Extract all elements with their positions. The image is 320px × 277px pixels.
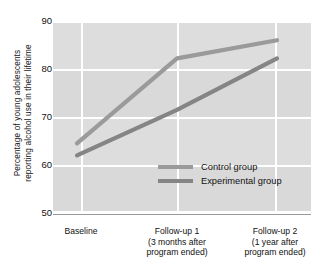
y-tick-label-80: 80 xyxy=(30,64,52,74)
chart-figure: Percentage of young adolescents reportin… xyxy=(0,0,320,277)
x-tick-followup-2-line-1: Follow-up 2 xyxy=(235,226,315,237)
y-tick-label-50: 50 xyxy=(30,208,52,218)
legend-swatch-control-group xyxy=(158,165,193,169)
x-tick-followup-2-line-2: (1 year after xyxy=(235,237,315,248)
plot-area: Control group Experimental group xyxy=(53,21,311,213)
x-tick-label-baseline: Baseline xyxy=(41,226,121,237)
chart-legend: Control group Experimental group xyxy=(158,160,282,188)
x-tick-followup-1-line-1: Follow-up 1 xyxy=(137,226,217,237)
series-line-control-group xyxy=(77,40,277,143)
x-tick-followup-1-line-2: (3 months after xyxy=(137,237,217,248)
x-tick-label-followup-1: Follow-up 1 (3 months after program ende… xyxy=(137,226,217,258)
y-tick-label-60: 60 xyxy=(30,160,52,170)
legend-item-control-group: Control group xyxy=(158,160,282,174)
y-tick-label-70: 70 xyxy=(30,112,52,122)
legend-swatch-experimental-group xyxy=(158,179,193,183)
x-tick-baseline-line-1: Baseline xyxy=(41,226,121,237)
x-axis-line xyxy=(53,214,311,215)
x-tick-followup-1-line-3: program ended) xyxy=(137,247,217,258)
legend-item-experimental-group: Experimental group xyxy=(158,174,282,188)
y-axis-title-line-1: Percentage of young adolescents xyxy=(12,8,23,218)
x-tick-label-followup-2: Follow-up 2 (1 year after program ended) xyxy=(235,226,315,258)
x-tick-followup-2-line-3: program ended) xyxy=(235,247,315,258)
legend-label-experimental-group: Experimental group xyxy=(201,176,282,187)
series-line-experimental-group xyxy=(77,58,277,155)
legend-label-control-group: Control group xyxy=(201,162,257,173)
y-tick-label-90: 90 xyxy=(30,16,52,26)
